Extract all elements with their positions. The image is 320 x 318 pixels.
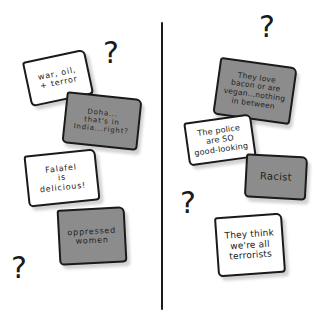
note-text: war, oil, + terror bbox=[37, 65, 79, 91]
note-text: Racist bbox=[260, 170, 293, 183]
sticky-note-racist: Racist bbox=[244, 153, 308, 200]
sticky-note-oppressed-women: oppressed women bbox=[57, 206, 128, 265]
note-text: The police are SO good-looking bbox=[191, 123, 249, 158]
note-text: They love bacon or are vegan...nothing i… bbox=[222, 70, 288, 113]
question-mark-icon: ? bbox=[103, 38, 119, 68]
question-mark-icon: ? bbox=[11, 253, 27, 283]
note-text: Falafel is delicious! bbox=[37, 162, 86, 194]
note-text: They think we're all terrorists bbox=[224, 228, 276, 262]
note-text: oppressed women bbox=[67, 226, 117, 247]
note-text: Doha... that's in India...right? bbox=[73, 106, 130, 136]
center-divider bbox=[161, 22, 163, 310]
sticky-note-falafel: Falafel is delicious! bbox=[23, 148, 100, 207]
sticky-note-terrorists: They think we're all terrorists bbox=[214, 213, 286, 278]
sticky-note-doha: Doha... that's in India...right? bbox=[61, 91, 142, 151]
question-mark-icon: ? bbox=[259, 12, 275, 42]
illustration-canvas: ? war, oil, + terror Doha... that's in I… bbox=[0, 0, 320, 318]
sticky-note-bacon-vegan: They love bacon or are vegan...nothing i… bbox=[212, 57, 297, 125]
question-mark-icon: ? bbox=[180, 188, 196, 218]
